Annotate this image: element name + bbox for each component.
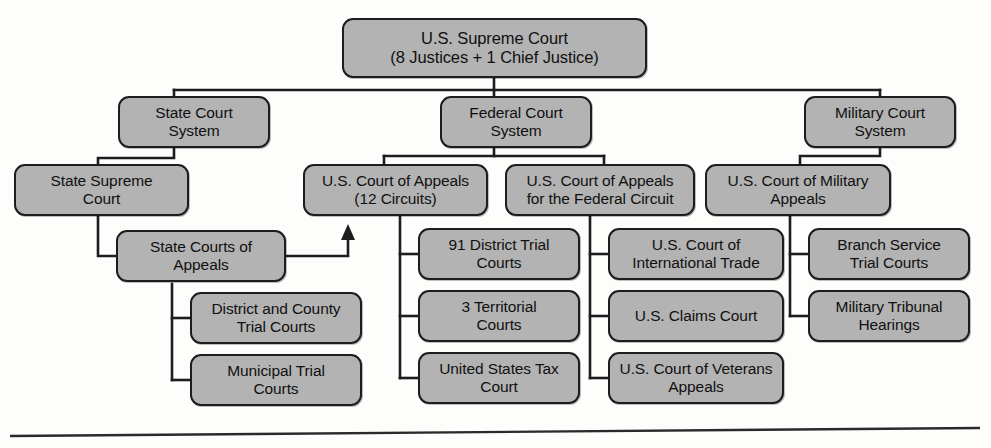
node-military-court-system[interactable]: Military Court System: [804, 96, 956, 148]
node-federal-court-system-label: Federal Court System: [469, 104, 562, 141]
node-court-of-international-trade-label: U.S. Court of International Trade: [632, 236, 759, 273]
node-state-court-system[interactable]: State Court System: [118, 96, 270, 148]
node-supreme-court-label: U.S. Supreme Court (8 Justices + 1 Chief…: [390, 29, 598, 68]
node-us-court-of-appeals-circuits-label: U.S. Court of Appeals (12 Circuits): [322, 172, 469, 209]
node-supreme-court[interactable]: U.S. Supreme Court (8 Justices + 1 Chief…: [342, 18, 647, 78]
court-system-diagram: U.S. Supreme Court (8 Justices + 1 Chief…: [0, 0, 991, 448]
node-united-states-tax-court[interactable]: United States Tax Court: [418, 352, 580, 404]
node-district-trial-courts-label: 91 District Trial Courts: [449, 236, 550, 273]
node-state-courts-of-appeals[interactable]: State Courts of Appeals: [116, 230, 286, 282]
node-military-tribunal-hearings[interactable]: Military Tribunal Hearings: [808, 290, 970, 342]
node-territorial-courts[interactable]: 3 Territorial Courts: [418, 290, 580, 342]
edge-stateappeals-to-uscircuits: [285, 238, 348, 256]
node-federal-court-system[interactable]: Federal Court System: [440, 96, 592, 148]
node-district-and-county-trial-courts-label: District and County Trial Courts: [211, 300, 340, 337]
node-united-states-tax-court-label: United States Tax Court: [439, 360, 559, 397]
node-us-claims-court-label: U.S. Claims Court: [635, 307, 757, 325]
node-court-of-veterans-appeals[interactable]: U.S. Court of Veterans Appeals: [608, 352, 784, 404]
node-municipal-trial-courts-label: Municipal Trial Courts: [227, 362, 325, 399]
node-us-court-of-appeals-federal-circuit-label: U.S. Court of Appeals for the Federal Ci…: [527, 172, 674, 209]
node-district-and-county-trial-courts[interactable]: District and County Trial Courts: [190, 292, 362, 344]
node-district-trial-courts[interactable]: 91 District Trial Courts: [418, 228, 580, 280]
node-state-court-system-label: State Court System: [155, 104, 232, 141]
node-us-claims-court[interactable]: U.S. Claims Court: [608, 290, 784, 342]
node-branch-service-trial-courts-label: Branch Service Trial Courts: [837, 236, 941, 273]
node-branch-service-trial-courts[interactable]: Branch Service Trial Courts: [808, 228, 970, 280]
edge-state-to-state-supreme: [98, 146, 174, 166]
node-territorial-courts-label: 3 Territorial Courts: [461, 298, 536, 335]
node-state-supreme-court[interactable]: State Supreme Court: [14, 164, 189, 216]
bottom-rule: [10, 428, 980, 436]
node-municipal-trial-courts[interactable]: Municipal Trial Courts: [190, 354, 362, 406]
edge-military-to-appeals: [800, 146, 880, 166]
node-state-courts-of-appeals-label: State Courts of Appeals: [150, 238, 252, 275]
arrowhead-up-icon: [341, 224, 355, 240]
node-military-court-system-label: Military Court System: [835, 104, 925, 141]
edge-statesupreme-to-stateappeals: [98, 214, 118, 256]
node-us-court-of-appeals-circuits[interactable]: U.S. Court of Appeals (12 Circuits): [303, 164, 488, 216]
node-military-tribunal-hearings-label: Military Tribunal Hearings: [836, 298, 943, 335]
node-us-court-of-military-appeals-label: U.S. Court of Military Appeals: [728, 172, 869, 209]
node-court-of-international-trade[interactable]: U.S. Court of International Trade: [608, 228, 784, 280]
node-state-supreme-court-label: State Supreme Court: [50, 172, 152, 209]
node-us-court-of-appeals-federal-circuit[interactable]: U.S. Court of Appeals for the Federal Ci…: [505, 164, 695, 216]
node-us-court-of-military-appeals[interactable]: U.S. Court of Military Appeals: [705, 164, 891, 216]
node-court-of-veterans-appeals-label: U.S. Court of Veterans Appeals: [620, 360, 773, 397]
